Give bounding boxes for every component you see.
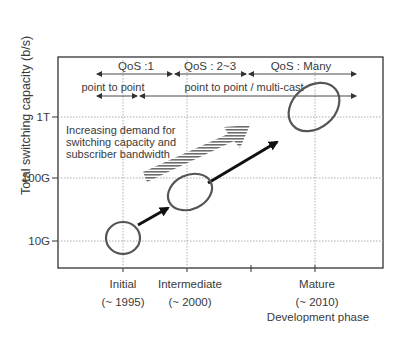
annotation-line-2: switching capacity and bbox=[66, 136, 176, 148]
connection-label-p2p: point to point bbox=[82, 81, 145, 93]
y-tick-label-10g: 10G bbox=[28, 235, 50, 247]
annotation-line-3: subscriber bandwidth bbox=[66, 148, 170, 160]
growth-arrow-initial-to-intermediate bbox=[138, 208, 168, 225]
qos-label-3: QoS : Many bbox=[271, 60, 332, 72]
x-label-intermediate: Intermediate bbox=[158, 278, 222, 290]
qos-label-2: QoS : 2~3 bbox=[184, 60, 236, 72]
x-period-mature: (~ 2010) bbox=[295, 296, 338, 308]
connection-label-multicast: point to point / multi-cast bbox=[184, 81, 303, 93]
annotation-line-1: Increasing demand for bbox=[66, 124, 176, 136]
y-tick-label-100g: 100G bbox=[22, 172, 50, 184]
diagram-canvas: Total switching capacity (b/s) 1T 100G 1… bbox=[0, 0, 409, 338]
y-tick-label-1t: 1T bbox=[37, 111, 50, 123]
x-label-mature: Mature bbox=[299, 278, 335, 290]
x-axis-label: Development phase bbox=[267, 311, 369, 323]
qos-label-1: QoS :1 bbox=[118, 60, 154, 72]
x-label-initial: Initial bbox=[110, 278, 137, 290]
phase-ellipse-intermediate bbox=[162, 167, 218, 217]
x-period-intermediate: (~ 2000) bbox=[168, 296, 211, 308]
x-period-initial: (~ 1995) bbox=[101, 296, 144, 308]
